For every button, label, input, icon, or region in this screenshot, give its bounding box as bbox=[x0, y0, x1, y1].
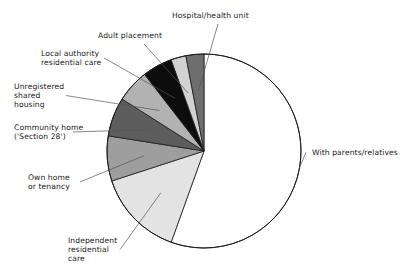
pie-slice-label-line: Unregistered bbox=[14, 82, 64, 91]
pie-slice-label-line: Independent bbox=[68, 236, 117, 245]
pie-slice-label-line: With parents/relatives bbox=[312, 148, 398, 157]
pie-slice-label-line: Adult placement bbox=[98, 31, 162, 40]
pie-slice-label-line: or tenancy bbox=[28, 182, 70, 191]
pie-slice-label: Own homeor tenancy bbox=[28, 173, 70, 191]
pie-slice-label-line: shared bbox=[14, 91, 41, 100]
pie-slice-label-line: Community home bbox=[14, 123, 84, 132]
pie-slice-label-line: housing bbox=[14, 100, 45, 109]
pie-slice-label: Unregisteredsharedhousing bbox=[14, 82, 64, 109]
pie-slice-label: Adult placement bbox=[98, 31, 162, 40]
pie-slice-label: With parents/relatives bbox=[312, 148, 398, 157]
pie-slice-label-line: Own home bbox=[28, 173, 70, 182]
pie-slice-label: Hospital/health unit bbox=[172, 11, 249, 20]
pie-slice-label-line: care bbox=[68, 254, 85, 263]
pie-slice-label: Independentresidentialcare bbox=[68, 236, 117, 263]
pie-slice-label-line: residential bbox=[68, 245, 109, 254]
pie-slice-label: Local authorityresidential care bbox=[41, 49, 102, 67]
pie-chart-figure: With parents/relativesIndependentresiden… bbox=[0, 0, 420, 280]
pie-slice-label-line: ('Section 28') bbox=[14, 132, 66, 141]
pie-slices-group bbox=[107, 54, 301, 248]
pie-slice-label-line: residential care bbox=[41, 58, 102, 67]
pie-slice-label-line: Hospital/health unit bbox=[172, 11, 249, 20]
pie-slice-label-line: Local authority bbox=[41, 49, 100, 58]
pie-chart-svg: With parents/relativesIndependentresiden… bbox=[0, 0, 420, 280]
